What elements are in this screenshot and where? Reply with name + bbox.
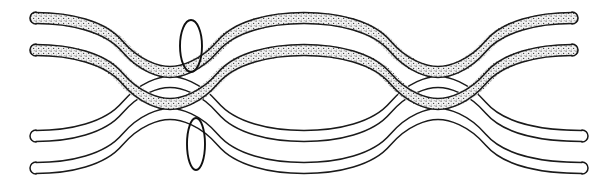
- weave-diagram-figure: [0, 0, 616, 185]
- weave-diagram-canvas: [0, 0, 616, 185]
